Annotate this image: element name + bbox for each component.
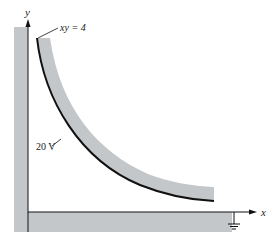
y-axis-label: y (24, 6, 30, 18)
curve-equation-label: xy = 4 (59, 22, 86, 33)
y-axis-arrow-icon (26, 19, 31, 27)
x-axis-label: x (260, 206, 266, 218)
potential-label: 20 V (36, 141, 56, 152)
x-axis-arrow-icon (249, 210, 257, 215)
electrostatics-diagram: y x xy = 4 20 V (0, 0, 276, 244)
hyperbolic-conductor-band (37, 38, 214, 201)
equation-leader-line (38, 28, 58, 38)
